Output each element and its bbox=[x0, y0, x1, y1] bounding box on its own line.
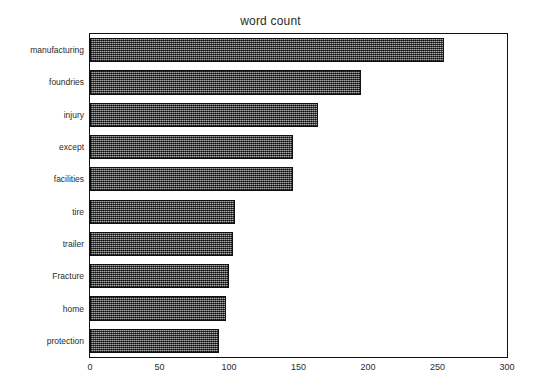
y-tick-label-manufacturing: manufacturing bbox=[0, 45, 84, 55]
y-tick-label-home: home bbox=[0, 304, 84, 314]
x-tick-label-250: 250 bbox=[430, 362, 445, 372]
bar-row bbox=[90, 196, 507, 228]
y-tick-label-injury: injury bbox=[0, 110, 84, 120]
bar-row bbox=[90, 131, 507, 163]
bar-except bbox=[90, 135, 293, 159]
y-tick-label-fracture: Fracture bbox=[0, 271, 84, 281]
y-axis-labels: manufacturingfoundriesinjuryexceptfacili… bbox=[0, 34, 84, 357]
bar-foundries bbox=[90, 70, 361, 94]
x-axis-labels: 050100150200250300 bbox=[0, 362, 541, 382]
bar-row bbox=[90, 163, 507, 195]
y-tick-label-protection: protection bbox=[0, 336, 84, 346]
x-tick-label-100: 100 bbox=[221, 362, 236, 372]
bar-row bbox=[90, 292, 507, 324]
bar-row bbox=[90, 66, 507, 98]
bar-manufacturing bbox=[90, 38, 444, 62]
bar-home bbox=[90, 296, 226, 320]
word-count-bar-chart: word count manufacturingfoundriesinjurye… bbox=[0, 0, 541, 390]
bar-row bbox=[90, 325, 507, 357]
bar-tire bbox=[90, 200, 235, 224]
y-tick-label-foundries: foundries bbox=[0, 77, 84, 87]
y-tick-label-facilities: facilities bbox=[0, 174, 84, 184]
bar-fracture bbox=[90, 264, 229, 288]
bar-row bbox=[90, 34, 507, 66]
y-tick-label-tire: tire bbox=[0, 207, 84, 217]
bar-protection bbox=[90, 329, 219, 353]
y-tick-label-trailer: trailer bbox=[0, 239, 84, 249]
x-tick-label-50: 50 bbox=[154, 362, 164, 372]
bar-facilities bbox=[90, 167, 293, 191]
bar-trailer bbox=[90, 232, 233, 256]
x-tick-label-150: 150 bbox=[291, 362, 306, 372]
chart-title: word count bbox=[0, 14, 541, 28]
bars-container bbox=[90, 34, 507, 357]
bar-row bbox=[90, 228, 507, 260]
bar-row bbox=[90, 260, 507, 292]
bar-injury bbox=[90, 103, 318, 127]
bar-row bbox=[90, 99, 507, 131]
x-tick-label-0: 0 bbox=[87, 362, 92, 372]
x-tick-label-200: 200 bbox=[360, 362, 375, 372]
y-tick-label-except: except bbox=[0, 142, 84, 152]
x-tick-label-300: 300 bbox=[499, 362, 514, 372]
